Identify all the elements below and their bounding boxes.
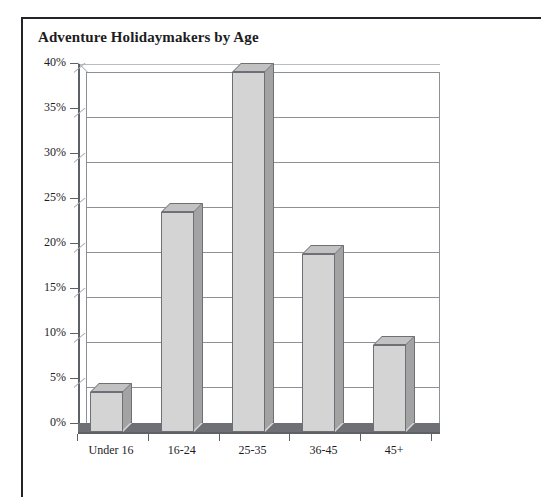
x-axis-tick	[360, 434, 361, 441]
y-axis-tick	[70, 153, 78, 154]
bar-front-face	[90, 392, 123, 433]
bar-side-face	[335, 245, 344, 423]
gridline-depth-line	[74, 288, 86, 298]
x-axis-label: 45+	[349, 443, 439, 458]
y-axis-label: 40%	[26, 55, 66, 70]
x-axis-tick	[77, 434, 78, 441]
y-axis-label: 5%	[26, 370, 66, 385]
gridline-depth-line	[74, 243, 86, 253]
bar-top-face	[161, 203, 203, 212]
bar-25-35[interactable]	[232, 63, 265, 432]
bar-36-45[interactable]	[302, 245, 335, 432]
y-axis-label: 25%	[26, 190, 66, 205]
bar-front-face	[161, 212, 194, 433]
gridline-depth-line	[74, 333, 86, 343]
y-axis-tick	[70, 333, 78, 334]
bar-45[interactable]	[373, 336, 406, 432]
y-axis-label: 15%	[26, 280, 66, 295]
bar-top-face	[232, 63, 274, 72]
y-axis-label: 35%	[26, 100, 66, 115]
bar-front-face	[373, 345, 406, 432]
bar-top-face	[90, 383, 132, 392]
bar-side-face	[406, 336, 415, 423]
y-axis-tick	[70, 243, 78, 244]
y-axis-tick	[70, 378, 78, 379]
bar-side-face	[265, 63, 274, 423]
y-axis-label: 10%	[26, 325, 66, 340]
y-axis-label: 20%	[26, 235, 66, 250]
y-axis-tick	[70, 108, 78, 109]
gridline-depth-line	[74, 63, 86, 73]
bar-front-face	[302, 254, 335, 432]
x-axis-line	[78, 432, 440, 434]
bar-16-24[interactable]	[161, 203, 194, 433]
bar-top-face	[302, 245, 344, 254]
x-axis-tick	[289, 434, 290, 441]
bar-under-16[interactable]	[90, 383, 123, 433]
y-axis-tick	[70, 288, 78, 289]
y-axis-label: 0%	[26, 415, 66, 430]
gridline-depth-line	[74, 153, 86, 163]
y-axis-tick	[70, 198, 78, 199]
gridline-depth-line	[74, 378, 86, 388]
y-axis-tick	[70, 423, 78, 424]
y-axis-label: 30%	[26, 145, 66, 160]
y-axis-tick	[70, 63, 78, 64]
bar-front-face	[232, 72, 265, 432]
x-axis-tick	[431, 434, 432, 441]
x-axis-tick	[148, 434, 149, 441]
bar-side-face	[194, 203, 203, 424]
gridline-depth-line	[74, 108, 86, 118]
x-axis-tick	[219, 434, 220, 441]
bar-top-face	[373, 336, 415, 345]
gridline-depth-line	[74, 198, 86, 208]
